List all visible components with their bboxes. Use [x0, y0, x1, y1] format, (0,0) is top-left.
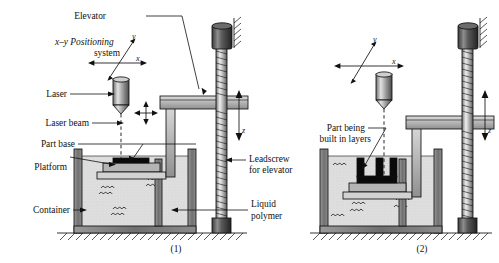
laser-head-1: [113, 77, 129, 114]
label-elevator: Elevator: [74, 11, 107, 21]
label-platform: Platform: [34, 162, 68, 172]
y-axis-label-1: y: [131, 32, 136, 41]
label-liquid-polymer: Liquid polymer: [251, 199, 283, 221]
label-part-base: Part base: [41, 139, 75, 149]
z-axis-arrow-2: z: [482, 90, 492, 141]
y-axis-label-2: y: [372, 35, 377, 44]
label-container: Container: [33, 205, 71, 215]
label-xy-positioning-line1: x–y Positioning: [54, 37, 114, 47]
label-liquid-polymer-line1: Liquid: [251, 199, 276, 209]
elevator-frame-2: [406, 116, 494, 197]
x-axis-label-2: x: [391, 57, 396, 66]
leadscrew-1: [212, 46, 231, 233]
ground-hatch-2: [310, 233, 492, 240]
label-laser: Laser: [46, 89, 68, 99]
label-liquid-polymer-line2: polymer: [251, 211, 283, 221]
xy-positioning-arrows-2: y x: [334, 35, 404, 84]
leadscrew-2: [458, 46, 477, 233]
label-leadscrew: Leadscrew for elevator: [249, 154, 293, 175]
drive-motor-2: [458, 17, 487, 49]
label-xy-positioning: x–y Positioning system: [54, 37, 121, 58]
laser-head-2: [376, 72, 392, 109]
label-part-being-built: Part being built in layers: [319, 123, 371, 144]
xy-cross-arrows-1: [134, 101, 158, 125]
ground-hatch-1: [57, 233, 247, 240]
caption-panel-1: (1): [171, 244, 182, 255]
label-xy-positioning-line2: system: [94, 48, 121, 58]
panel-2: z y x Part being built in l: [310, 17, 494, 255]
label-leadscrew-line2: for elevator: [249, 165, 293, 175]
label-part-being-line2: built in layers: [319, 134, 371, 144]
label-leadscrew-line1: Leadscrew: [249, 154, 290, 164]
elevator-frame-1: [160, 96, 248, 177]
drive-motor-1: [212, 17, 241, 49]
x-axis-label-1: x: [135, 54, 140, 63]
label-laser-beam: Laser beam: [46, 118, 90, 128]
stereolithography-diagram: z y x: [0, 0, 499, 263]
panel-1: z y x: [33, 11, 293, 255]
caption-panel-2: (2): [417, 244, 428, 255]
z-axis-label-1: z: [241, 126, 246, 135]
label-part-being-line1: Part being: [327, 123, 366, 133]
figure-canvas: z y x: [0, 0, 499, 263]
